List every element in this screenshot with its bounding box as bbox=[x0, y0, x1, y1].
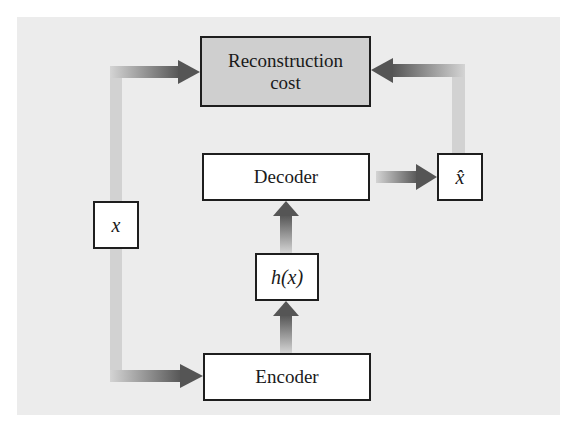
code-box: h(x) bbox=[255, 253, 319, 301]
encoder-to-code-arrow bbox=[273, 301, 299, 353]
code-label: h(x) bbox=[271, 266, 303, 289]
reconstruction-to-cost-arrow bbox=[371, 58, 465, 153]
reconstruction-box: x̂ bbox=[437, 153, 483, 201]
code-to-decoder-arrow bbox=[273, 201, 299, 253]
input-label: x bbox=[112, 214, 121, 237]
input-box: x bbox=[93, 201, 139, 249]
decoder-label: Decoder bbox=[254, 166, 318, 188]
reconstruction-label: x̂ bbox=[456, 166, 465, 189]
decoder-box: Decoder bbox=[202, 153, 370, 201]
reconstruction-cost-box: Reconstruction cost bbox=[200, 36, 371, 107]
reconstruction-cost-label: Reconstruction cost bbox=[221, 50, 351, 94]
input-to-cost-arrow bbox=[110, 60, 200, 202]
encoder-box: Encoder bbox=[203, 353, 371, 401]
encoder-label: Encoder bbox=[255, 366, 318, 388]
input-to-encoder-arrow bbox=[110, 248, 203, 388]
decoder-to-reconstruction-arrow bbox=[376, 164, 437, 190]
